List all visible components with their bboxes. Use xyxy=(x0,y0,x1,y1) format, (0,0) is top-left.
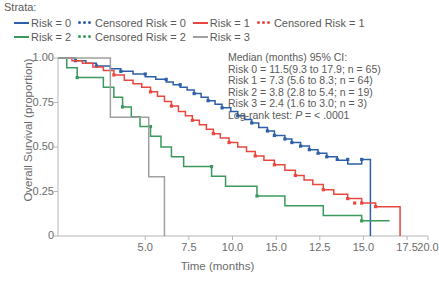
censor-mark xyxy=(212,132,215,135)
censor-mark xyxy=(374,205,377,208)
y-tick-label: 0.50 xyxy=(20,140,54,152)
legend-dots-swatch xyxy=(78,21,93,25)
y-tick-label: 0.25 xyxy=(20,185,54,197)
legend-row: Risk = 2Censored Risk = 2Risk = 3 xyxy=(14,30,434,44)
censor-mark xyxy=(165,78,168,81)
p-symbol: P xyxy=(295,109,302,121)
statistics-annotation: Median (months) 95% CI:Risk 0 = 11.5(9.3… xyxy=(228,52,381,122)
censor-mark xyxy=(325,155,328,158)
legend-risk-0[interactable]: Risk = 0 xyxy=(14,17,71,29)
censor-mark xyxy=(170,104,173,107)
censor-mark xyxy=(283,137,286,140)
censor-mark xyxy=(360,158,363,161)
censor-mark xyxy=(255,194,258,197)
censor-mark xyxy=(316,152,319,155)
y-tick-label: 0.75 xyxy=(20,96,54,108)
censor-mark xyxy=(193,92,196,95)
censor-mark xyxy=(149,90,152,93)
censor-mark xyxy=(191,119,194,122)
censor-mark xyxy=(322,188,325,191)
legend-censored-risk-0[interactable]: Censored Risk = 0 xyxy=(78,17,186,29)
x-tick-label: 10.0 xyxy=(222,241,243,253)
legend-label: Censored Risk = 1 xyxy=(274,17,365,29)
censor-mark xyxy=(266,129,269,132)
censor-mark xyxy=(76,76,79,79)
x-axis-label: Time (months) xyxy=(0,260,435,272)
censor-mark xyxy=(119,70,122,73)
x-tick-label: 15.0 xyxy=(265,241,286,253)
censor-mark xyxy=(250,121,253,124)
legend-line-swatch xyxy=(14,22,29,24)
strata-title: Strata: xyxy=(4,1,36,13)
censor-mark xyxy=(273,134,276,137)
legend-risk-1[interactable]: Risk = 1 xyxy=(193,17,250,29)
legend-label: Risk = 3 xyxy=(210,31,250,43)
censor-mark xyxy=(210,165,213,168)
legend-risk-2[interactable]: Risk = 2 xyxy=(14,31,71,43)
censor-mark xyxy=(308,148,311,151)
censor-mark xyxy=(336,158,339,161)
censor-mark xyxy=(220,106,223,109)
censor-mark xyxy=(179,83,182,86)
y-axis-ticks: 1.000.750.500.250 xyxy=(20,46,54,246)
censor-mark xyxy=(121,105,124,108)
x-tick-label: 17.5 xyxy=(396,241,417,253)
plot-area: Overall Survival (proportion) 1.000.750.… xyxy=(0,46,435,291)
x-axis-ticks: 5.07.510.015.012.515.017.520.0 xyxy=(0,241,435,257)
censor-mark xyxy=(144,72,147,75)
censor-mark xyxy=(360,219,363,222)
legend-label: Censored Risk = 2 xyxy=(95,31,186,43)
y-tick-label: 0 xyxy=(20,229,54,241)
legend-dots-swatch xyxy=(78,35,93,39)
legend-label: Risk = 2 xyxy=(31,31,71,43)
legend-censored-risk-1[interactable]: Censored Risk = 1 xyxy=(257,17,365,29)
legend-censored-risk-2[interactable]: Censored Risk = 2 xyxy=(78,31,186,43)
km-curve xyxy=(58,58,164,236)
legend-line-swatch xyxy=(193,22,208,24)
legend-row: Risk = 0Censored Risk = 0Risk = 1Censore… xyxy=(14,16,434,30)
legend-label: Risk = 1 xyxy=(210,17,250,29)
legend-dots-swatch xyxy=(257,21,272,25)
censor-mark xyxy=(273,163,276,166)
x-tick-label: 7.5 xyxy=(181,241,196,253)
censor-mark xyxy=(112,73,115,76)
censor-mark xyxy=(353,201,356,204)
legend-line-swatch xyxy=(193,36,208,38)
x-tick-label: 20.0 xyxy=(417,241,438,253)
legend-label: Censored Risk = 0 xyxy=(95,17,186,29)
censor-mark xyxy=(290,141,293,144)
censor-mark xyxy=(360,201,363,204)
x-tick-label: 5.0 xyxy=(138,241,153,253)
censor-mark xyxy=(294,174,297,177)
logrank-line: Log-rank test: P = < .0001 xyxy=(228,110,381,122)
y-tick-label: 1.00 xyxy=(20,51,54,63)
censor-mark xyxy=(254,154,257,157)
x-tick-label: 12.5 xyxy=(309,241,330,253)
censor-mark xyxy=(227,141,230,144)
annotation-heading: Median (months) 95% CI: xyxy=(228,52,381,64)
censor-mark xyxy=(299,145,302,148)
censor-mark xyxy=(346,197,349,200)
censor-mark xyxy=(346,158,349,161)
legend-label: Risk = 0 xyxy=(31,17,71,29)
x-tick-label: 15.0 xyxy=(353,241,374,253)
censor-mark xyxy=(206,99,209,102)
chart-legend: Risk = 0Censored Risk = 0Risk = 1Censore… xyxy=(14,16,434,44)
legend-risk-3[interactable]: Risk = 3 xyxy=(193,31,250,43)
legend-line-swatch xyxy=(14,36,29,38)
